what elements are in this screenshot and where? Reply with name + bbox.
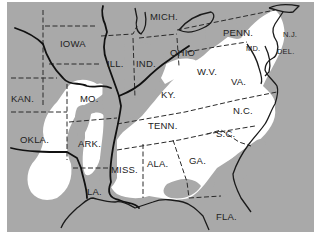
state-label-okla: OKLA.	[20, 134, 49, 145]
state-label-nj: N.J.	[283, 30, 297, 39]
state-label-ark: ARK.	[78, 138, 101, 149]
map-frame: MICH.IOWAILL.IND.OHIOPENN.W.V.VA.KY.KAN.…	[7, 2, 314, 232]
state-label-ala: ALA.	[147, 158, 168, 169]
state-label-ky: KY.	[161, 89, 176, 100]
state-label-mich: MICH.	[150, 11, 178, 22]
state-label-fla: FLA.	[216, 211, 237, 222]
state-label-la: LA.	[87, 186, 102, 197]
southeast-us-map: MICH.IOWAILL.IND.OHIOPENN.W.V.VA.KY.KAN.…	[7, 2, 314, 232]
state-label-md: MD.	[246, 44, 260, 53]
state-label-ga: GA.	[189, 155, 206, 166]
state-label-del: DEL.	[277, 47, 294, 56]
state-label-penn: PENN.	[223, 27, 253, 38]
state-label-miss: MISS.	[111, 164, 138, 175]
state-label-ohio: OHIO	[170, 47, 195, 58]
state-label-nc: N.C.	[233, 105, 253, 116]
state-label-ill: ILL.	[107, 58, 124, 69]
state-label-va: VA.	[231, 76, 246, 87]
state-label-kan: KAN.	[11, 93, 34, 104]
state-label-ind: IND.	[136, 58, 156, 69]
state-label-mo: MO.	[80, 93, 99, 104]
state-label-wv: W.V.	[197, 66, 217, 77]
state-label-sc: S.C.	[216, 128, 235, 139]
state-label-iowa: IOWA	[60, 38, 86, 49]
state-label-tenn: TENN.	[148, 120, 178, 131]
